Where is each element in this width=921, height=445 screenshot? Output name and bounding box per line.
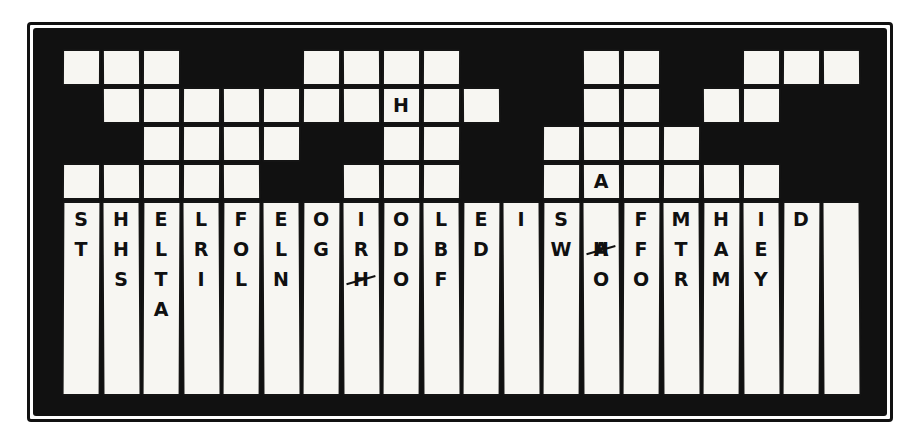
grid-cell-open[interactable] bbox=[341, 48, 380, 85]
tray-letter[interactable]: F bbox=[621, 204, 661, 234]
tray-letter[interactable]: D bbox=[461, 234, 501, 264]
tray-letter[interactable]: L bbox=[141, 234, 181, 264]
tray-letter[interactable]: N bbox=[261, 264, 301, 294]
puzzle-board[interactable]: HASTHHSELTALRIFOLELNOGIRHODOLBFEDISWAHOF… bbox=[61, 48, 861, 396]
grid-cell-open[interactable] bbox=[741, 48, 780, 85]
tray-letter[interactable]: B bbox=[421, 234, 461, 264]
tray-letter[interactable]: I bbox=[501, 204, 541, 234]
grid-cell-open[interactable] bbox=[581, 124, 620, 161]
tray-letter[interactable]: E bbox=[741, 234, 781, 264]
tray-letter[interactable]: S bbox=[541, 204, 581, 234]
grid-cell-open[interactable] bbox=[61, 48, 100, 85]
grid-cell-open[interactable] bbox=[741, 86, 780, 123]
grid-cell-open[interactable] bbox=[541, 162, 580, 199]
tray-letter[interactable]: R bbox=[661, 264, 701, 294]
tray-letter[interactable]: D bbox=[381, 234, 421, 264]
tray-letter[interactable]: G bbox=[301, 234, 341, 264]
grid-cell-open[interactable] bbox=[101, 48, 140, 85]
tray-letter[interactable]: O bbox=[581, 264, 621, 294]
tray-letter[interactable]: E bbox=[461, 204, 501, 234]
grid-cell-open[interactable] bbox=[741, 162, 780, 199]
grid-cell-open[interactable] bbox=[381, 48, 420, 85]
tray-letter[interactable]: F bbox=[221, 204, 261, 234]
grid-cell-open[interactable] bbox=[621, 86, 660, 123]
tray-letter[interactable]: E bbox=[261, 204, 301, 234]
tray-letter[interactable]: M bbox=[661, 204, 701, 234]
grid-cell-open[interactable] bbox=[421, 86, 460, 123]
grid-cell-open[interactable] bbox=[661, 162, 700, 199]
tray-letter[interactable]: O bbox=[221, 234, 261, 264]
tray-letter[interactable]: O bbox=[621, 264, 661, 294]
grid-cell-open[interactable] bbox=[821, 48, 860, 85]
grid-cell-open[interactable] bbox=[781, 48, 820, 85]
grid-cell-open[interactable] bbox=[221, 124, 260, 161]
tray-letter[interactable]: R bbox=[181, 234, 221, 264]
tray-letter[interactable]: O bbox=[381, 204, 421, 234]
tray-letter[interactable]: F bbox=[621, 234, 661, 264]
tray-letter[interactable]: L bbox=[421, 204, 461, 234]
tray-letter[interactable]: S bbox=[61, 204, 101, 234]
tray-letter[interactable]: O bbox=[381, 264, 421, 294]
tray-letter[interactable]: H bbox=[341, 264, 381, 294]
tray-letter[interactable]: I bbox=[741, 204, 781, 234]
tray-letter[interactable]: T bbox=[141, 264, 181, 294]
grid-cell-open[interactable] bbox=[421, 48, 460, 85]
grid-cell-open[interactable] bbox=[261, 124, 300, 161]
grid-cell-open[interactable] bbox=[261, 86, 300, 123]
tray-letter[interactable]: W bbox=[541, 234, 581, 264]
grid-cell-open[interactable] bbox=[221, 86, 260, 123]
tray-letter[interactable]: I bbox=[181, 264, 221, 294]
grid-cell-open[interactable] bbox=[701, 162, 740, 199]
grid-cell-open[interactable] bbox=[421, 162, 460, 199]
grid-cell-open[interactable] bbox=[141, 86, 180, 123]
grid-cell-open[interactable] bbox=[581, 48, 620, 85]
tray-letter[interactable]: T bbox=[61, 234, 101, 264]
grid-cell-open[interactable] bbox=[461, 86, 500, 123]
grid-cell-open[interactable] bbox=[341, 86, 380, 123]
tray-letter[interactable]: L bbox=[221, 264, 261, 294]
tray-letter[interactable]: Y bbox=[741, 264, 781, 294]
tray-letter[interactable]: H bbox=[701, 204, 741, 234]
grid-cell-open[interactable] bbox=[181, 86, 220, 123]
tray-letter[interactable]: H bbox=[101, 204, 141, 234]
grid-cell-open[interactable] bbox=[301, 86, 340, 123]
grid-cell-open[interactable] bbox=[141, 48, 180, 85]
tray-letter[interactable]: H bbox=[101, 234, 141, 264]
tray-letter[interactable]: O bbox=[301, 204, 341, 234]
grid-cell-open[interactable] bbox=[221, 162, 260, 199]
grid-cell-open[interactable] bbox=[661, 124, 700, 161]
grid-cell-open[interactable] bbox=[341, 162, 380, 199]
grid-cell-open[interactable] bbox=[621, 162, 660, 199]
grid-cell-open[interactable] bbox=[141, 162, 180, 199]
tray-column[interactable] bbox=[581, 200, 621, 395]
tray-letter[interactable]: H bbox=[581, 234, 621, 264]
grid-cell-open[interactable] bbox=[181, 162, 220, 199]
grid-cell-open[interactable] bbox=[701, 86, 740, 123]
grid-cell-open[interactable] bbox=[581, 86, 620, 123]
grid-cell-open[interactable] bbox=[301, 48, 340, 85]
grid-cell-open[interactable] bbox=[101, 86, 140, 123]
grid-cell-open[interactable] bbox=[621, 48, 660, 85]
grid-cell-open[interactable] bbox=[381, 162, 420, 199]
tray-letter[interactable]: F bbox=[421, 264, 461, 294]
grid-cell-open[interactable] bbox=[101, 162, 140, 199]
grid-cell-open[interactable] bbox=[61, 162, 100, 199]
tray-letter[interactable]: A bbox=[701, 234, 741, 264]
tray-letter[interactable]: T bbox=[661, 234, 701, 264]
tray-letter[interactable]: R bbox=[341, 234, 381, 264]
tray-letter[interactable]: L bbox=[261, 234, 301, 264]
tray-letter[interactable]: L bbox=[181, 204, 221, 234]
grid-cell-open[interactable] bbox=[541, 124, 580, 161]
tray-letter[interactable]: S bbox=[101, 264, 141, 294]
grid-cell-open[interactable] bbox=[141, 124, 180, 161]
tray-letter[interactable]: E bbox=[141, 204, 181, 234]
grid-cell-open[interactable] bbox=[381, 124, 420, 161]
tray-column[interactable] bbox=[821, 200, 861, 395]
grid-cell-open[interactable] bbox=[621, 124, 660, 161]
tray-letter[interactable]: I bbox=[341, 204, 381, 234]
tray-letter[interactable]: A bbox=[141, 294, 181, 324]
grid-cell-open[interactable] bbox=[181, 124, 220, 161]
tray-letter[interactable]: D bbox=[781, 204, 821, 234]
grid-cell-open[interactable] bbox=[421, 124, 460, 161]
tray-letter[interactable]: M bbox=[701, 264, 741, 294]
